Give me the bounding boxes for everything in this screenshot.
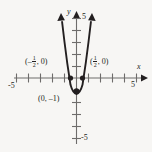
x-axis-arrow-icon <box>141 75 148 82</box>
right-intercept-label: (12, 0) <box>90 55 108 69</box>
right-intercept-numerator: 1 <box>93 55 97 62</box>
point-vertex <box>74 88 80 94</box>
right-intercept-rest: , 0) <box>98 57 109 66</box>
left-intercept-denominator: 2 <box>32 62 36 68</box>
parabola-left-arrow-icon <box>57 13 65 21</box>
right-intercept-fraction: 12 <box>93 55 97 69</box>
graph-figure: x y -5 5 5 -5 (–12, 0) (12, 0) (0, –1) <box>0 0 152 152</box>
y-axis-arrow-icon <box>73 11 80 18</box>
y-axis-name-label: y <box>67 8 71 16</box>
left-intercept-numerator: 1 <box>32 55 36 62</box>
left-intercept-sign: – <box>28 57 32 66</box>
left-intercept-rest: , 0) <box>37 57 48 66</box>
coordinate-plane-svg <box>0 0 152 152</box>
vertex-label: (0, –1) <box>38 95 59 103</box>
x-axis-min-label: -5 <box>8 82 15 90</box>
x-axis-name-label: x <box>137 63 141 71</box>
parabola-right-arrow-icon <box>88 13 96 21</box>
y-axis-min-label: -5 <box>81 134 88 142</box>
point-left-intercept <box>68 75 73 80</box>
right-intercept-denominator: 2 <box>93 62 97 68</box>
left-intercept-label: (–12, 0) <box>25 55 47 69</box>
y-axis-max-label: 5 <box>82 13 86 21</box>
left-intercept-fraction: 12 <box>32 55 36 69</box>
point-right-intercept <box>80 75 85 80</box>
x-axis-max-label: 5 <box>131 81 135 89</box>
